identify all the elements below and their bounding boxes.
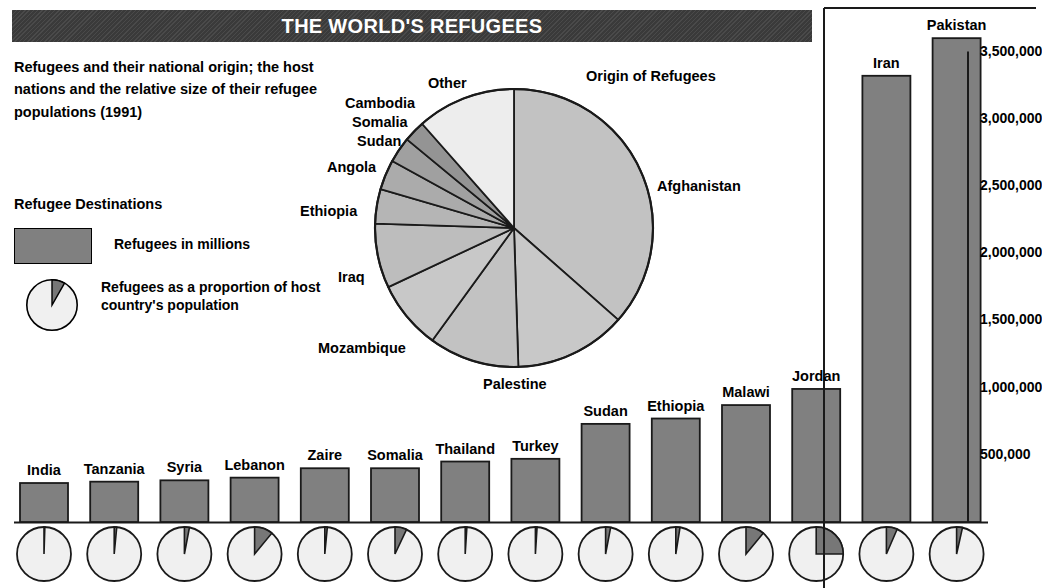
bar-label-pakistan: Pakistan (927, 17, 987, 33)
proportion-pie-ethiopia (649, 527, 703, 581)
pie-label-palestine: Palestine (483, 376, 547, 392)
axis-tick-500000: 500,000 (980, 446, 1031, 462)
bar-label-zaire: Zaire (307, 447, 342, 463)
proportion-pie-iran (859, 527, 913, 581)
legend-pie-label: Refugees as a proportion of host country… (101, 278, 334, 315)
bar-label-ethiopia: Ethiopia (647, 398, 704, 414)
bar-label-sudan: Sudan (583, 403, 627, 419)
axis-tick-1500000: 1,500,000 (980, 311, 1042, 327)
proportion-pie-lebanon (228, 527, 282, 581)
pie-label-iraq: Iraq (338, 269, 365, 285)
bar-label-malawi: Malawi (722, 384, 770, 400)
pie-label-mozambique: Mozambique (318, 340, 406, 356)
pie-label-angola: Angola (327, 159, 376, 175)
bar-label-somalia: Somalia (367, 447, 423, 463)
proportion-pie-tanzania (87, 527, 141, 581)
legend-row-pie: Refugees as a proportion of host country… (14, 278, 334, 332)
bar-label-thailand: Thailand (435, 441, 495, 457)
proportion-pie-pakistan (930, 527, 984, 581)
legend-proportion-pie-icon (25, 278, 79, 332)
proportion-pie-syria (157, 527, 211, 581)
proportion-pie-thailand (438, 527, 492, 581)
proportion-pie-jordan (789, 527, 843, 581)
origin-pie-title: Origin of Refugees (586, 68, 716, 84)
legend-row-bar: Refugees in millions (14, 228, 334, 264)
pie-label-cambodia: Cambodia (345, 95, 415, 111)
pie-label-somalia: Somalia (352, 114, 408, 130)
proportion-pie-malawi (719, 527, 773, 581)
axis-tick-2500000: 2,500,000 (980, 177, 1042, 193)
bar-label-syria: Syria (167, 459, 202, 475)
deck-text: Refugees and their national origin; the … (14, 56, 344, 123)
bar-label-iran: Iran (873, 55, 900, 71)
axis-tick-3000000: 3,000,000 (980, 110, 1042, 126)
proportion-pie-zaire (298, 527, 352, 581)
page-title: THE WORLD'S REFUGEES (282, 15, 543, 38)
bar-label-jordan: Jordan (792, 368, 840, 384)
axis-tick-2000000: 2,000,000 (980, 244, 1042, 260)
proportion-pie-turkey (508, 527, 562, 581)
pie-label-sudan: Sudan (357, 133, 401, 149)
pie-label-afghanistan: Afghanistan (657, 178, 741, 194)
legend-bar-label: Refugees in millions (114, 228, 250, 253)
title-banner: THE WORLD'S REFUGEES (12, 10, 812, 42)
legend: Refugee Destinations Refugees in million… (14, 196, 334, 346)
origin-of-refugees-pie (372, 86, 656, 370)
bar-label-india: India (27, 462, 61, 478)
bar-label-lebanon: Lebanon (224, 457, 284, 473)
legend-heading: Refugee Destinations (14, 196, 334, 212)
axis-tick-3500000: 3,500,000 (980, 43, 1042, 59)
axis-tick-1000000: 1,000,000 (980, 379, 1042, 395)
proportion-pie-sudan (579, 527, 633, 581)
pie-label-ethiopia: Ethiopia (300, 203, 357, 219)
bar-label-tanzania: Tanzania (84, 461, 145, 477)
proportion-pie-india (17, 527, 71, 581)
proportion-pie-somalia (368, 527, 422, 581)
pie-label-other: Other (428, 75, 467, 91)
legend-bar-swatch (14, 228, 92, 264)
bar-label-turkey: Turkey (512, 438, 558, 454)
